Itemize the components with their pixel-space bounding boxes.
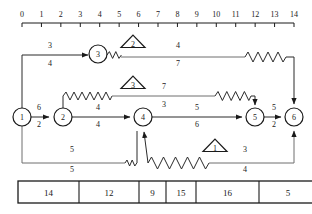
edge-2-4-bottom-label: 4 bbox=[96, 120, 100, 129]
axis-tick-labels: 01234567891011121314 bbox=[20, 10, 298, 19]
axis-tick-label: 9 bbox=[195, 10, 199, 19]
spring-bottom-left bbox=[125, 160, 137, 166]
spring-mid-left bbox=[63, 92, 112, 100]
edge-1-3-bottom-label: 4 bbox=[48, 59, 52, 68]
edge-5-6-bottom-label: 2 bbox=[272, 120, 276, 129]
edge-1-2-bottom-label: 2 bbox=[37, 120, 41, 129]
axis-tick-label: 5 bbox=[117, 10, 121, 19]
node-label-4: 4 bbox=[141, 113, 145, 122]
spring-bottom-right bbox=[148, 157, 209, 169]
triangle-label-3: 3 bbox=[131, 81, 135, 90]
table-cell[interactable]: 15 bbox=[177, 188, 187, 198]
axis-tick-label: 14 bbox=[290, 10, 298, 19]
values-table-border bbox=[18, 181, 312, 203]
edge-1-4b-top-label: 5 bbox=[70, 145, 74, 154]
edge-2-to-5-drop bbox=[251, 96, 255, 105]
axis-group: 01234567891011121314 bbox=[20, 10, 298, 27]
edge-3-to-6-drop bbox=[286, 57, 294, 104]
node-label-3: 3 bbox=[96, 50, 100, 59]
axis-tick-label: 7 bbox=[156, 10, 160, 19]
table-cell[interactable]: 9 bbox=[150, 188, 155, 198]
table-cell[interactable]: 14 bbox=[44, 188, 54, 198]
edge-1-4b-bottom-label: 5 bbox=[70, 165, 74, 174]
edge-1-to-3-path bbox=[22, 55, 83, 117]
edge-4-5-bottom-label: 6 bbox=[195, 120, 199, 129]
axis-tick-label: 2 bbox=[59, 10, 63, 19]
axis-tick-label: 10 bbox=[212, 10, 220, 19]
spring-top-left bbox=[107, 52, 121, 59]
axis-tick-label: 3 bbox=[78, 10, 82, 19]
table-cell[interactable]: 16 bbox=[223, 188, 233, 198]
edge-4-5-top-label: 5 bbox=[195, 103, 199, 112]
axis-tick-label: 8 bbox=[175, 10, 179, 19]
diagram-svg: 01234567891011121314 231 123456 bbox=[0, 0, 312, 214]
edge-2-5-top-label: 7 bbox=[162, 82, 166, 91]
triangle-label-2: 2 bbox=[131, 40, 135, 49]
node-label-5: 5 bbox=[253, 113, 257, 122]
edge-3-6-top-label: 4 bbox=[176, 41, 180, 50]
edge-labels-group: 344773624456525534 bbox=[37, 41, 276, 174]
axis-tick-label: 11 bbox=[232, 10, 240, 19]
edge-4-6b-top-label: 3 bbox=[243, 145, 247, 154]
spring-mid-right bbox=[215, 92, 251, 101]
edge-5-6-top-label: 5 bbox=[272, 103, 276, 112]
edge-1-3-top-label: 3 bbox=[48, 41, 52, 50]
edge-2-4-top-label: 4 bbox=[96, 103, 100, 112]
edge-3-6-bottom-label: 7 bbox=[176, 59, 180, 68]
network-diagram-canvas: 01234567891011121314 231 123456 bbox=[0, 0, 312, 214]
node-label-6: 6 bbox=[292, 113, 296, 122]
node-label-2: 2 bbox=[61, 113, 65, 122]
node-label-1: 1 bbox=[20, 113, 24, 122]
axis-tick-label: 13 bbox=[271, 10, 279, 19]
axis-tick-label: 6 bbox=[137, 10, 141, 19]
spring-top-right bbox=[245, 52, 286, 62]
table-cell[interactable]: 12 bbox=[105, 188, 114, 198]
edge-bottom-to-4-arrow bbox=[144, 132, 148, 163]
axis-ticks bbox=[22, 23, 294, 27]
edge-1-2-top-label: 6 bbox=[37, 103, 41, 112]
axis-tick-label: 12 bbox=[251, 10, 259, 19]
axis-tick-label: 0 bbox=[20, 10, 24, 19]
edge-2-5-bottom-label: 3 bbox=[162, 100, 166, 109]
triangle-label-1: 1 bbox=[213, 144, 217, 153]
axis-tick-label: 1 bbox=[39, 10, 43, 19]
table-cell[interactable]: 5 bbox=[286, 188, 291, 198]
axis-tick-label: 4 bbox=[98, 10, 102, 19]
edge-4-6b-bottom-label: 4 bbox=[243, 165, 247, 174]
values-table-group: 1412915165128 bbox=[18, 181, 312, 203]
